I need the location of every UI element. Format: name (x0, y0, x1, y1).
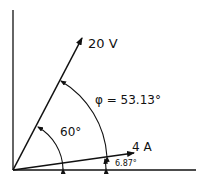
phase-angle-label: φ = 53.13° (95, 93, 161, 107)
voltage-angle-label: 60° (60, 125, 81, 139)
current-angle-arc (105, 159, 106, 169)
current-angle-label: 6.87° (115, 159, 137, 168)
voltage-phasor-label: 20 V (88, 36, 118, 51)
voltage-phasor-arrow (13, 38, 82, 170)
phasor-diagram: 20 V 4 A 60° φ = 53.13° 6.87° (0, 0, 208, 182)
current-phasor-label: 4 A (132, 140, 152, 154)
